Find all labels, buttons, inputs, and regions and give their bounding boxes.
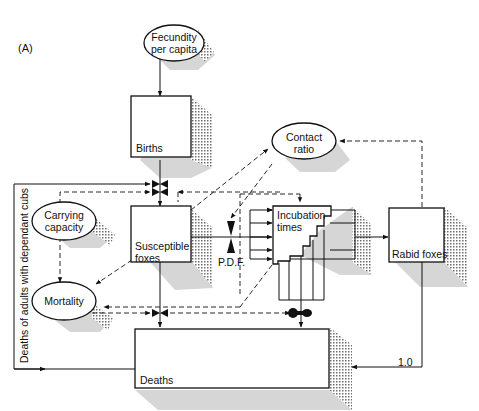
carrying-line2: capacity [45,221,84,233]
mortality-label: Mortality [32,295,96,307]
carrying-capacity-label: Carryingcapacity [32,209,96,233]
rate-label-1-0: 1.0 [398,356,413,368]
fecundity-label: Fecundityper capita [144,31,204,55]
susceptible-line2: foxes [135,252,160,264]
diagram-canvas: (A) Fecundityper capita Births Contactra… [0,0,479,411]
susceptible-line1: Susceptible [135,240,189,252]
susceptible-foxes-label: Susceptiblefoxes [135,240,189,264]
contact-line1: Contact [286,131,322,143]
fecundity-line2: per capita [151,43,197,55]
rabid-foxes-label: Rabid foxes [392,248,447,260]
side-flow-label: Deaths of adults with dependant cubs [18,188,30,363]
contact-ratio-label: Contactratio [274,131,334,155]
pdf-label: P.D.F. [218,256,245,268]
fecundity-line1: Fecundity [151,31,197,43]
incubation-times-label: Incubationtimes [277,209,325,233]
diagram-svg [0,0,479,411]
deaths-label: Deaths [140,374,173,386]
incubation-line2: times [277,221,302,233]
births-label: Births [136,142,163,154]
incubation-line1: Incubation [277,209,325,221]
carrying-line1: Carrying [44,209,84,221]
panel-label: (A) [18,42,33,54]
contact-line2: ratio [294,143,314,155]
